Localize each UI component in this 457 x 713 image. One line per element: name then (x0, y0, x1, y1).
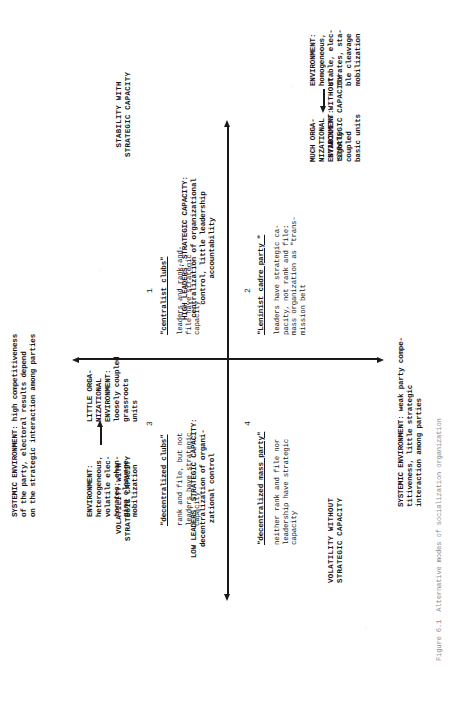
corner-label-bottom-left: VOLATILITY WITHOUT STRATEGIC CAPACITY (328, 498, 345, 583)
quadrant-2-body: leaders have strategic ca- pacity, not r… (274, 216, 309, 335)
vertical-axis-arrow-up (72, 357, 79, 363)
vertical-axis-arrow-down (377, 357, 384, 363)
quadrant-2-title: "Leninist cadre party " (258, 235, 267, 335)
corner-label-top-right: STABILITY WITH STRATEGIC CAPACITY (116, 72, 133, 157)
quadrant-1-org-label: LITTLE ORGA- NIZATIONAL ENVIRONMENT: loo… (87, 357, 141, 422)
quadrant-3-number: 3 (146, 421, 155, 426)
axis-label-systemic-environment-top: SYSTEMIC ENVIRONMENT: high competitivene… (12, 334, 39, 517)
scanned-page: SYSTEMIC ENVIRONMENT: high competitivene… (0, 0, 457, 713)
quadrant-4-title: "decentralized mass party" (258, 432, 267, 545)
quadrant-1-number: 1 (146, 288, 155, 293)
horizontal-axis-arrow-right (224, 120, 230, 127)
quadrant-4-body: neither rank and file nor leadership hav… (274, 439, 300, 545)
figure-caption: Figure 6.1 Alternative modes of socializ… (436, 418, 444, 661)
axis-label-systemic-environment-bottom: SYSTEMIC ENVIRONMENT: weak party compe- … (398, 337, 425, 507)
quadrant-2-connector-arrow (320, 106, 326, 113)
horizontal-axis (227, 125, 229, 595)
quadrant-1-body: leaders and rank-and- file have strategi… (177, 246, 203, 335)
quadrant-3-body: rank and file, but not leaders have stra… (177, 433, 203, 526)
quadrant-4-number: 4 (244, 421, 253, 426)
quadrant-1-connector-arrow (97, 420, 103, 427)
quadrant-1-connector-line (100, 425, 102, 445)
quadrant-3-title: "decentralized clubs" (161, 435, 170, 527)
quadrant-2-org-label: MUCH ORGA- NIZATIONAL ENVIRONMENT: tight… (310, 110, 364, 162)
quadrant-2-env-label: ENVIRONMENT: homogeneous, stable, elec- … (310, 29, 364, 86)
horizontal-axis-arrow-left (224, 594, 230, 601)
quadrant-2-number: 2 (244, 288, 253, 293)
quadrant-1-env-label: ENVIRONMENT: heterogeneous, volatile ele… (87, 456, 141, 517)
quadrant-1-title: "centralist clubs" (161, 257, 170, 335)
